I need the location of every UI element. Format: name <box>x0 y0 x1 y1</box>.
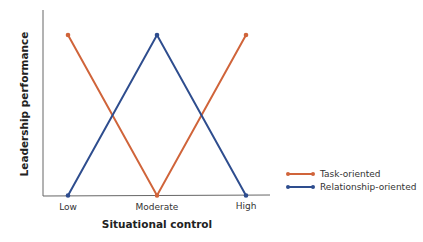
legend-label-task-oriented: Task-oriented <box>319 169 381 179</box>
y-axis-title: Leadership performance <box>18 32 30 177</box>
series-layer <box>66 33 249 198</box>
x-tick-high: High <box>236 201 257 211</box>
x-tick-labels: Low Moderate High <box>59 201 256 212</box>
data-point-relationship-oriented-high <box>244 193 249 198</box>
data-point-task-oriented-low <box>66 33 71 38</box>
x-tick-low: Low <box>59 202 77 212</box>
data-point-relationship-oriented-low <box>66 193 71 198</box>
legend-marker-icon <box>311 172 315 176</box>
legend-marker-icon <box>286 172 290 176</box>
data-point-task-oriented-moderate <box>155 193 160 198</box>
series-line-relationship-oriented <box>68 35 246 196</box>
series-line-task-oriented <box>68 35 246 196</box>
data-point-task-oriented-high <box>244 33 249 38</box>
legend-marker-icon <box>286 185 290 189</box>
x-tick-moderate: Moderate <box>136 202 179 212</box>
legend-item-task-oriented: Task-oriented <box>286 169 381 179</box>
legend-label-relationship-oriented: Relationship-oriented <box>320 182 416 192</box>
legend-marker-icon <box>311 185 315 189</box>
x-axis-title: Situational control <box>102 218 212 230</box>
legend: Task-oriented Relationship-oriented <box>286 169 416 192</box>
data-point-relationship-oriented-moderate <box>155 33 160 38</box>
line-chart: Low Moderate High Situational control Le… <box>0 0 423 242</box>
legend-item-relationship-oriented: Relationship-oriented <box>286 182 416 192</box>
